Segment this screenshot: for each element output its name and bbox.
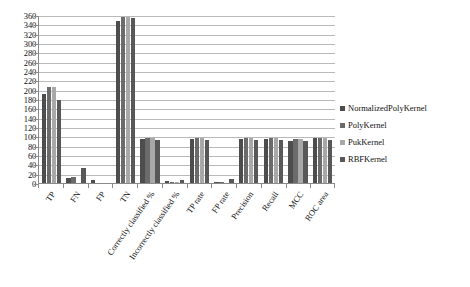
legend-item[interactable]: NormalizedPolyKernel [340,100,468,117]
bar [229,179,233,183]
bar [318,138,322,183]
legend-label: PukKernel [348,138,384,147]
legend-swatch-icon [340,106,345,111]
bar [42,94,46,183]
bar-group [236,16,261,183]
bar [244,138,248,183]
bar [180,180,184,183]
x-axis-tick-mark [63,184,88,188]
x-axis-tick-label: FP [94,190,107,203]
bar [81,168,85,183]
x-axis-label-cell: TP [38,189,63,284]
x-axis-label-cell: FN [63,189,88,284]
bar [66,178,70,183]
bar [264,139,268,183]
bar [121,17,125,183]
legend-label: NormalizedPolyKernel [348,104,427,113]
bar [200,138,204,183]
bar-group [286,16,311,183]
y-axis-tick-mark [34,137,38,138]
bar-group [187,16,212,183]
x-axis-tick-marks [38,184,335,188]
bar [116,21,120,183]
y-axis-tick-mark [34,44,38,45]
y-axis-tick-labels: 0204060801001201401601802002202402602803… [12,16,36,184]
bar-group [212,16,237,183]
bar [313,138,317,183]
bar [57,100,61,183]
bar-group [64,16,89,183]
bar [155,140,159,183]
x-axis-label-cell: FP [88,189,113,284]
legend-swatch-icon [340,157,345,162]
bar [145,138,149,183]
y-axis-tick-mark [34,128,38,129]
x-axis-label-cell: Precision [236,189,261,284]
legend-item[interactable]: PukKernel [340,134,468,151]
legend-label: PolyKernel [348,121,387,130]
bar [205,140,209,183]
x-axis-tick-mark [261,184,286,188]
x-axis-tick-mark [137,184,162,188]
x-axis-tick-mark [310,184,335,188]
bar-group [88,16,113,183]
bar [52,87,56,183]
x-axis-tick-label: Recall [261,190,281,213]
bar [239,139,243,183]
y-axis-tick-mark [34,119,38,120]
bar [140,139,144,183]
bar [170,182,174,183]
plot-wrapper: 0204060801001201401601802002202402602803… [0,0,340,287]
bar-chart: 0204060801001201401601802002202402602803… [0,0,470,287]
y-axis-tick-mark [34,35,38,36]
bar [323,138,327,183]
bar [298,139,302,183]
x-axis-tick-label: FN [69,190,83,204]
bar-groups [39,16,335,183]
y-axis-tick-mark [34,156,38,157]
bar [254,140,258,183]
bar [303,141,307,183]
x-axis-label-cell: ROC area [310,189,335,284]
chart-legend: NormalizedPolyKernelPolyKernelPukKernelR… [340,100,468,168]
bar [214,182,218,183]
x-axis-tick-label: TP rate [185,190,206,215]
legend-label: RBFKernel [348,155,387,164]
x-axis-tick-mark [236,184,261,188]
bar [279,140,283,183]
bar [195,138,199,183]
legend-item[interactable]: PolyKernel [340,117,468,134]
bar-group [39,16,64,183]
x-axis-tick-mark [162,184,187,188]
bar [190,139,194,183]
x-axis-tick-mark [211,184,236,188]
legend-item[interactable]: RBFKernel [340,151,468,168]
x-axis-label-cell: TP rate [187,189,212,284]
x-axis-tick-mark [88,184,113,188]
y-axis-tick-mark [34,91,38,92]
y-axis-tick-mark [34,16,38,17]
y-axis-tick-mark [34,100,38,101]
plot-area [38,16,335,184]
y-axis-tick-mark [34,147,38,148]
x-axis-label-cell: Incorrectly classified % [162,189,187,284]
bar-group [113,16,138,183]
x-axis-tick-label: TP [45,190,58,203]
bar [47,87,51,183]
bar-group [261,16,286,183]
x-axis-label-cell: FP rate [211,189,236,284]
x-axis-category-labels: TPFNFPTNCorrectly classified %Incorrectl… [38,189,335,284]
bar [219,182,223,183]
y-axis-tick-mark [34,81,38,82]
bar-group [138,16,163,183]
y-axis-tick-mark [34,109,38,110]
x-axis-tick-label: MCC [287,190,305,211]
bar [71,177,75,183]
x-axis-tick-mark [187,184,212,188]
legend-swatch-icon [340,123,345,128]
bar-group [310,16,335,183]
bar [293,139,297,183]
x-axis-label-cell: Recall [261,189,286,284]
x-axis-tick-label: TN [118,190,132,204]
x-axis-tick-mark [38,184,63,188]
